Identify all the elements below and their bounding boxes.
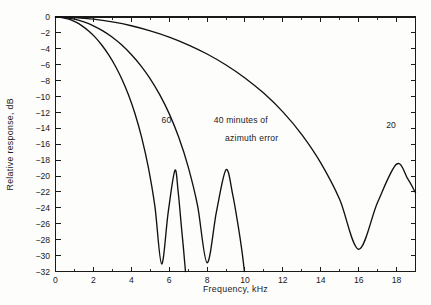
- y-tick-label: −20: [35, 171, 50, 181]
- curve-label-60: 60: [162, 115, 172, 125]
- y-tick-label: −18: [35, 155, 50, 165]
- x-axis-title: Frequency, kHz: [203, 284, 268, 294]
- y-tick-label: −12: [35, 108, 50, 118]
- y-tick-label: −16: [35, 139, 50, 149]
- x-tick-label: 18: [392, 275, 402, 285]
- y-axis-title: Relative response, dB: [5, 98, 15, 190]
- data-curves: [56, 17, 416, 272]
- y-tick-label: −2: [40, 28, 50, 38]
- x-tick-label: 12: [278, 275, 288, 285]
- curve-label-40-line2: azimuth error: [225, 133, 278, 143]
- figure-container: 024681012141618 0−2−4−6−8−10−12−14−16−18…: [0, 0, 431, 305]
- curve-annotations: 6040 minutes ofazimuth error20: [162, 115, 397, 143]
- y-tick-label: −30: [35, 251, 50, 261]
- x-tick-label: 2: [91, 275, 96, 285]
- y-tick-label: −14: [35, 123, 50, 133]
- y-tick-label: −26: [35, 219, 50, 229]
- y-tick-label: −4: [40, 44, 50, 54]
- y-tick-label: 0: [45, 12, 50, 22]
- y-axis-tick-labels: 0−2−4−6−8−10−12−14−16−18−20−22−24−26−28−…: [35, 12, 50, 277]
- azimuth-loss-chart: 024681012141618 0−2−4−6−8−10−12−14−16−18…: [0, 0, 431, 305]
- y-tick-label: −22: [35, 187, 50, 197]
- y-tick-label: −32: [35, 267, 50, 277]
- x-tick-label: 4: [129, 275, 134, 285]
- x-tick-label: 14: [316, 275, 326, 285]
- curve-40: [56, 17, 245, 272]
- y-tick-label: −6: [40, 60, 50, 70]
- y-tick-label: −28: [35, 235, 50, 245]
- y-tick-label: −8: [40, 76, 50, 86]
- x-tick-label: 6: [167, 275, 172, 285]
- curve-label-20: 20: [386, 120, 396, 130]
- curve-60: [56, 17, 186, 272]
- x-tick-label: 16: [354, 275, 364, 285]
- y-tick-label: −24: [35, 203, 50, 213]
- y-tick-label: −10: [35, 92, 50, 102]
- curve-label-40-line1: 40 minutes of: [214, 115, 269, 125]
- x-tick-label: 0: [53, 275, 58, 285]
